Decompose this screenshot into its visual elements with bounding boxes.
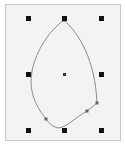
center-point-icon[interactable] (63, 73, 66, 76)
handle-bottom-left[interactable] (26, 128, 31, 133)
handle-top-right[interactable] (99, 16, 104, 21)
anchor-point[interactable] (45, 118, 48, 121)
anchor-point[interactable] (86, 110, 89, 113)
handle-bottom-center[interactable] (62, 128, 67, 133)
anchor-point[interactable] (96, 102, 99, 105)
handle-middle-left[interactable] (26, 72, 31, 77)
handle-top-center[interactable] (62, 16, 67, 21)
handle-middle-right[interactable] (99, 72, 104, 77)
anchor-points (45, 19, 99, 121)
handle-bottom-right[interactable] (99, 128, 104, 133)
handle-top-left[interactable] (26, 16, 31, 21)
